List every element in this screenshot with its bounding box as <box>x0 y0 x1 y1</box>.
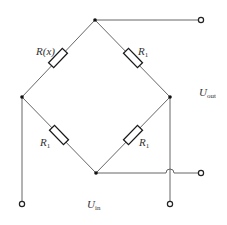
resistor-r1-lower-left-icon <box>50 125 69 144</box>
label-u-in: Uin <box>87 198 101 212</box>
label-rx: R(x) <box>35 45 55 58</box>
terminal-in-left-icon <box>19 201 24 206</box>
label-r1-lower-left: R1 <box>39 136 51 150</box>
terminal-out-bottom-icon <box>198 170 203 175</box>
node-right-icon <box>168 95 172 99</box>
label-r1-lower-right: R1 <box>138 136 150 150</box>
terminal-in-right-icon <box>167 201 172 206</box>
node-left-icon <box>20 95 24 99</box>
label-u-out: Uout <box>199 86 216 100</box>
bridge-wires <box>22 20 170 173</box>
node-bottom-icon <box>94 171 98 175</box>
wheatstone-bridge-diagram: R(x) R1 R1 R1 Uout Uin <box>0 0 227 225</box>
label-r1-upper-right: R1 <box>137 45 149 59</box>
terminal-out-top-icon <box>198 17 203 22</box>
node-top-icon <box>93 18 97 22</box>
wire-out-bottom-with-crossover <box>96 169 198 173</box>
